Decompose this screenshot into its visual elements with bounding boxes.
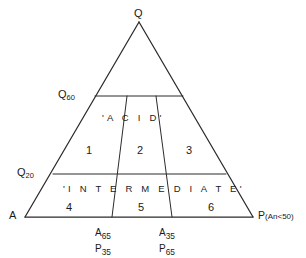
vertex-label-q: Q: [134, 8, 143, 19]
bottom-tick-label-a65-p35: A65 P35: [95, 226, 111, 258]
band-label-acid: 'A C I D': [102, 113, 165, 123]
tick-label-q60-base: Q: [58, 88, 67, 100]
tick-label-q60-sub: 60: [67, 93, 75, 102]
tick-label-q20: Q20: [17, 167, 34, 179]
ternary-diagram-figure: Q A P(An<50) Q60 Q20 'A C I D' 'I N T E …: [0, 0, 306, 258]
vertex-label-p: P(An<50): [258, 210, 294, 221]
field-number-5: 5: [138, 202, 144, 213]
field-number-1: 1: [86, 145, 92, 156]
bottom-tick-label-a35-p65: A35 P65: [159, 226, 175, 258]
bottom-tick-p35: P35: [95, 242, 111, 258]
bottom-tick-a65-base: A: [95, 227, 102, 238]
bottom-tick-p65: P65: [159, 242, 175, 258]
band-label-intermediate: 'I N T E R M E D I A T E': [63, 184, 245, 194]
bottom-tick-a35-sub: 35: [166, 231, 175, 241]
bottom-tick-a35: A35: [159, 226, 175, 242]
tick-label-q60: Q60: [58, 89, 75, 101]
field-number-4: 4: [66, 202, 72, 213]
bottom-tick-p65-sub: 65: [166, 247, 175, 257]
tick-label-q20-sub: 20: [26, 171, 34, 180]
vertex-label-p-main: P: [258, 209, 265, 221]
bottom-tick-a35-base: A: [159, 227, 166, 238]
tick-label-q20-base: Q: [17, 166, 26, 178]
bottom-tick-a65: A65: [95, 226, 111, 242]
bottom-tick-p35-base: P: [95, 243, 102, 254]
field-number-6: 6: [208, 202, 214, 213]
vertex-label-p-qualifier: (An<50): [265, 212, 294, 221]
field-number-2: 2: [137, 145, 143, 156]
boundary-lines: [53, 96, 226, 174]
vertex-label-a: A: [9, 210, 16, 221]
bottom-tick-a65-sub: 65: [102, 231, 111, 241]
field-number-3: 3: [186, 145, 192, 156]
bottom-tick-p65-base: P: [159, 243, 166, 254]
bottom-tick-p35-sub: 35: [102, 247, 111, 257]
